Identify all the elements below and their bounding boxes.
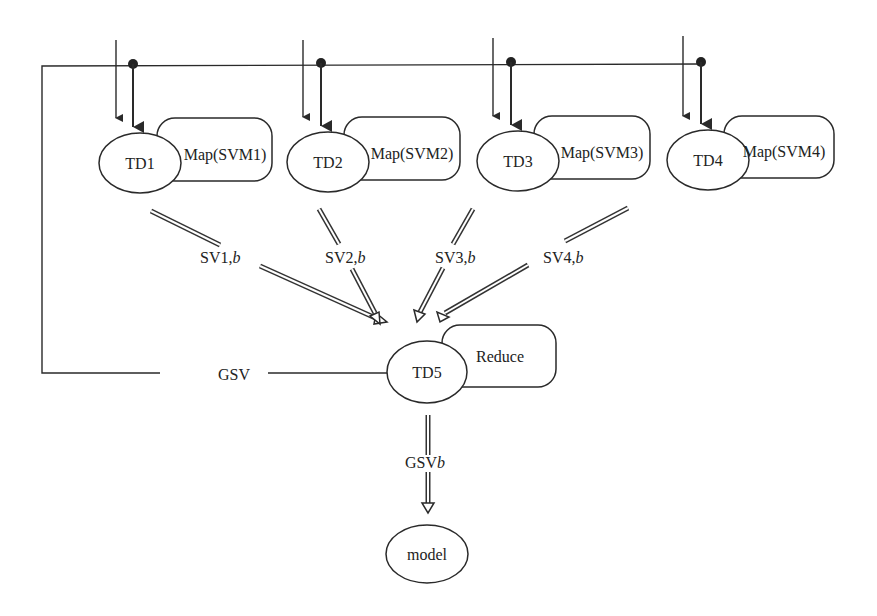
mapper-4 [667,36,834,190]
map4-label: Map(SVM4) [743,143,826,161]
sv1-label: SV1,b [200,249,240,266]
map3-label: Map(SVM3) [561,144,644,162]
gsv-feedback-label: GSV [218,366,250,383]
td2-label: TD2 [313,154,342,171]
sv3-label: SV3,b [435,249,475,266]
td5-label: TD5 [412,364,441,381]
sv-arrows [151,208,628,324]
map1-label: Map(SVM1) [184,146,267,164]
sv2-label: SV2,b [325,249,365,266]
td1-label: TD1 [125,155,154,172]
td3-label: TD3 [503,153,532,170]
sv4-label: SV4,b [543,249,583,266]
mapreduce-svm-diagram: TD1 Map(SVM1) TD2 Map(SVM2) TD3 Map(SVM3… [0,0,877,616]
reduce-label: Reduce [476,348,524,365]
map2-label: Map(SVM2) [371,145,454,163]
model-label: model [407,546,448,563]
gsvb-label: GSVb [405,454,445,471]
td4-label: TD4 [693,152,722,169]
feedback-loop [42,64,700,373]
